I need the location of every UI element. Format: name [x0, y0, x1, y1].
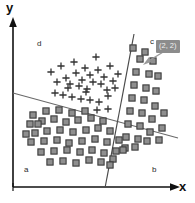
data-point-square — [60, 158, 66, 164]
data-point-square — [132, 144, 138, 150]
data-point-square — [120, 147, 126, 153]
data-point-plus — [86, 96, 93, 103]
data-point-plus — [92, 53, 99, 60]
data-point-square — [147, 129, 153, 135]
plot-canvas — [0, 0, 195, 203]
data-point-square — [64, 147, 70, 153]
data-point-square — [70, 129, 76, 135]
data-point-square — [23, 131, 29, 137]
data-point-square — [142, 49, 148, 55]
data-point-square — [51, 148, 57, 154]
data-point-square — [135, 136, 141, 142]
data-point-plus — [59, 91, 66, 98]
data-point-square — [127, 108, 133, 114]
data-point-square — [92, 136, 98, 142]
data-point-square — [69, 110, 75, 116]
data-point-plus — [57, 62, 64, 69]
data-point-square — [155, 73, 161, 79]
data-point-plus — [77, 95, 84, 102]
data-point-square — [56, 107, 62, 113]
data-point-square — [66, 140, 72, 146]
data-point-square — [159, 125, 165, 131]
series-square-cluster-right — [120, 45, 167, 153]
point-coordinate-tooltip: (2, 2) — [156, 40, 180, 53]
region-label-d: d — [37, 40, 41, 48]
data-point-square — [89, 147, 95, 153]
data-point-square — [28, 139, 34, 145]
data-point-square — [51, 116, 57, 122]
data-point-square — [156, 137, 162, 143]
scatter-plot-figure: y x d a b c (2, 2) — [0, 0, 195, 203]
data-point-plus — [95, 98, 102, 105]
data-point-plus — [104, 92, 111, 99]
data-point-plus — [47, 68, 54, 75]
data-point-square — [129, 95, 135, 101]
data-point-square — [139, 110, 145, 116]
data-point-square — [144, 138, 150, 144]
data-point-square — [41, 138, 47, 144]
data-point-plus — [104, 105, 111, 112]
data-point-square — [137, 56, 143, 62]
data-point-square — [43, 108, 49, 114]
data-point-square — [44, 128, 50, 134]
data-point-square — [123, 134, 129, 140]
data-point-plus — [93, 106, 100, 113]
data-point-plus — [94, 66, 101, 73]
data-point-plus — [103, 86, 110, 93]
data-point-square — [88, 115, 94, 121]
data-point-square — [83, 127, 89, 133]
data-point-plus — [111, 84, 118, 91]
data-point-plus — [68, 93, 75, 100]
data-point-square — [75, 117, 81, 123]
data-point-square — [104, 139, 110, 145]
data-point-plus — [109, 77, 116, 84]
data-point-square — [143, 85, 149, 91]
data-point-square — [35, 121, 41, 127]
data-point-square — [54, 137, 60, 143]
data-point-square — [116, 137, 122, 143]
data-point-plus — [86, 71, 93, 78]
data-point-square — [47, 159, 53, 165]
y-axis-label: y — [6, 1, 13, 14]
x-axis-label: x — [179, 180, 186, 193]
data-point-square — [130, 45, 136, 51]
region-label-c: c — [150, 38, 154, 46]
data-point-square — [141, 97, 147, 103]
data-point-square — [153, 88, 159, 94]
data-point-plus — [100, 73, 107, 80]
data-point-square — [57, 127, 63, 133]
data-point-square — [30, 112, 36, 118]
data-point-square — [131, 82, 137, 88]
series-plus-cluster — [47, 53, 121, 113]
data-point-square — [110, 156, 116, 162]
data-point-square — [125, 121, 131, 127]
data-point-square — [161, 110, 167, 116]
data-point-square — [86, 157, 92, 163]
data-point-square — [107, 162, 113, 168]
data-point-square — [63, 119, 69, 125]
data-point-square — [152, 103, 158, 109]
data-point-square — [149, 116, 155, 122]
data-point-square — [79, 138, 85, 144]
data-point-square — [95, 125, 101, 131]
data-point-plus — [114, 70, 121, 77]
data-point-plus — [51, 89, 58, 96]
y-axis-arrowhead — [9, 17, 17, 27]
data-point-square — [73, 160, 79, 166]
data-point-square — [38, 149, 44, 155]
data-point-plus — [106, 62, 113, 69]
data-point-plus — [81, 64, 88, 71]
data-point-square — [82, 108, 88, 114]
data-point-square — [77, 149, 83, 155]
region-label-b: b — [152, 166, 156, 174]
series-square-cluster-left — [23, 107, 128, 168]
data-point-square — [100, 118, 106, 124]
data-point-plus — [53, 78, 60, 85]
data-point-square — [98, 159, 104, 165]
data-point-square — [113, 148, 119, 154]
region-label-a: a — [24, 166, 28, 174]
data-point-plus — [89, 78, 96, 85]
data-point-square — [107, 128, 113, 134]
data-point-plus — [97, 80, 104, 87]
data-point-square — [133, 69, 139, 75]
